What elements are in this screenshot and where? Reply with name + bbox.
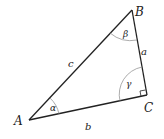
side-b [29, 95, 147, 120]
angle-label-beta: β [122, 29, 128, 39]
vertex-label-b: B [134, 5, 144, 19]
vertex-label-a: A [13, 114, 23, 128]
side-label-a: a [141, 46, 147, 57]
triangle-diagram: A B C c a b α β γ [0, 0, 164, 139]
angle-label-gamma: γ [126, 79, 132, 89]
side-label-b: b [85, 121, 91, 132]
side-label-c: c [68, 58, 74, 69]
angle-label-alpha: α [50, 103, 56, 113]
side-c [29, 10, 132, 120]
vertex-label-c: C [144, 101, 153, 115]
